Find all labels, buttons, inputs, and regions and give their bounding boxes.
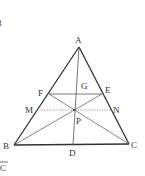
point-p-dot <box>73 109 75 111</box>
label-p: P <box>76 116 81 126</box>
label-a: A <box>75 35 82 45</box>
label-g: G <box>81 81 88 91</box>
segment-be <box>14 94 102 145</box>
segment-ab <box>14 47 79 145</box>
label-n: N <box>113 105 120 115</box>
label-b: B <box>3 141 9 151</box>
label-m: M <box>25 105 33 115</box>
label-f: F <box>38 88 43 98</box>
label-e: E <box>105 85 111 95</box>
partial-text-top-left: 3 <box>0 18 2 28</box>
partial-text-bottom-left: C <box>0 163 6 173</box>
segment-bc <box>14 144 129 145</box>
label-c: C <box>131 140 137 150</box>
label-d: D <box>69 148 76 158</box>
triangle-diagram: A B C D E F G M N P 3 C <box>0 0 145 176</box>
segment-ac <box>79 47 129 144</box>
segment-ad <box>73 47 79 145</box>
